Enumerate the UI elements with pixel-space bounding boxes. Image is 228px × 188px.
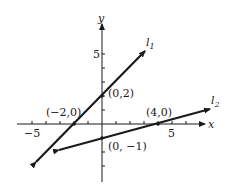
x-axis: −5 5 x	[17, 118, 215, 140]
label-l2: l2	[211, 94, 220, 109]
point-0-2	[100, 94, 104, 98]
label-point-4-0: (4,0)	[146, 106, 172, 119]
x-tick-label-neg5: −5	[24, 127, 40, 140]
x-axis-label: x	[208, 118, 215, 131]
y-tick-label-5: 5	[93, 48, 100, 61]
label-point-0-2: (0,2)	[108, 87, 134, 100]
y-axis-label: y	[97, 12, 105, 25]
label-l1: l1	[146, 36, 155, 51]
point-0-neg1	[100, 136, 104, 140]
point-neg2-0	[72, 122, 76, 126]
label-point-0-neg1: (0, −1)	[108, 140, 147, 153]
x-tick-label-5: 5	[168, 127, 175, 140]
point-4-0	[156, 122, 160, 126]
label-point-neg2-0: (−2,0)	[46, 106, 81, 119]
diagram-canvas: −5 5 x 5 y (−2,0) (0,2) l1	[0, 0, 228, 188]
coordinate-diagram: −5 5 x 5 y (−2,0) (0,2) l1	[0, 0, 228, 188]
